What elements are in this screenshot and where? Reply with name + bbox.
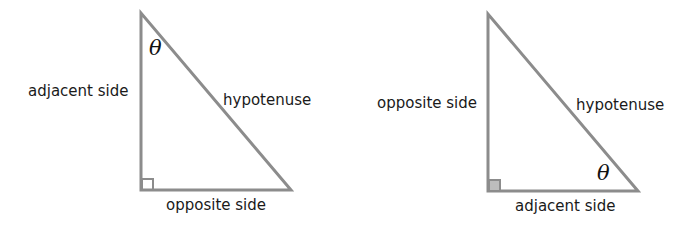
label-adjacent-side: adjacent side — [28, 84, 128, 99]
right-triangle-diagram: θ adjacent side hypotenuse opposite side… — [0, 0, 695, 227]
right-angle-marker — [489, 180, 500, 191]
label-adjacent-side: adjacent side — [515, 199, 615, 214]
theta-symbol: θ — [149, 38, 162, 59]
label-opposite-side: opposite side — [166, 198, 266, 213]
label-hypotenuse: hypotenuse — [223, 93, 311, 108]
label-hypotenuse: hypotenuse — [576, 98, 664, 113]
label-opposite-side: opposite side — [377, 96, 477, 111]
theta-symbol: θ — [597, 163, 610, 184]
right-angle-marker — [142, 179, 153, 190]
